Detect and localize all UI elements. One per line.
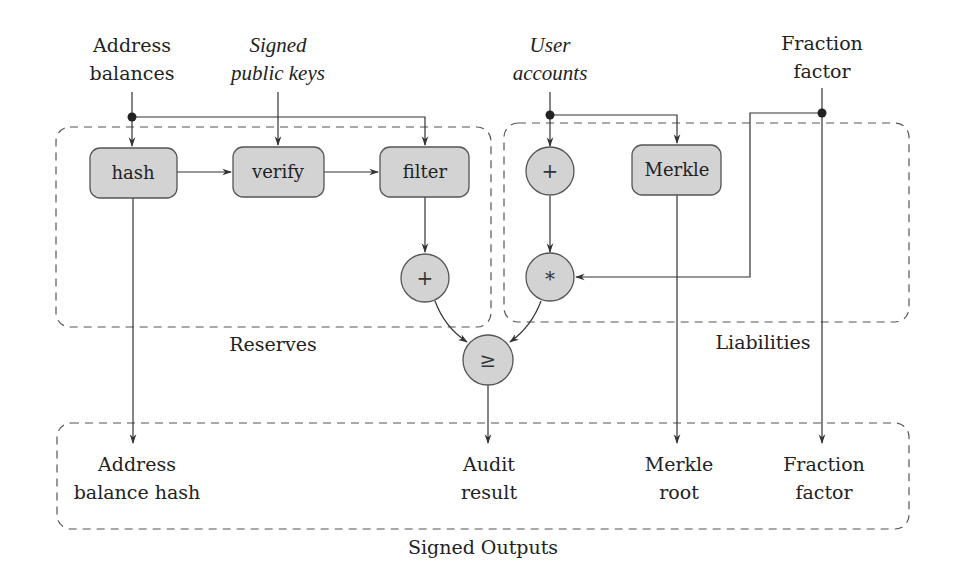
verify-node: verify — [233, 147, 324, 197]
input-address-balances-line2: balances — [90, 62, 175, 84]
output-merkle-root-line2: root — [659, 481, 699, 503]
liabilities-label: Liabilities — [715, 331, 810, 353]
merkle-node-label: Merkle — [644, 159, 709, 180]
output-merkle-root: Merkle root — [645, 453, 714, 503]
plus-icon: + — [417, 266, 434, 290]
hash-node-label: hash — [111, 162, 155, 183]
output-address-balance-hash: Address balance hash — [74, 453, 201, 503]
proof-of-solvency-diagram: Reserves Liabilities Signed Outputs Addr… — [0, 0, 957, 584]
input-signed-public-keys-line2: public keys — [229, 61, 325, 85]
merkle-node: Merkle — [632, 145, 721, 195]
output-fraction-factor-line2: factor — [795, 481, 853, 503]
input-signed-public-keys: Signed public keys — [229, 33, 325, 85]
signed-outputs-label: Signed Outputs — [408, 536, 558, 558]
junction-dot-accounts — [546, 111, 555, 120]
filter-node: filter — [380, 147, 469, 197]
input-fraction-factor-line1: Fraction — [781, 32, 863, 54]
multiply-node: * — [526, 253, 574, 301]
wire-reserves-sum-to-compare — [435, 301, 467, 342]
input-fraction-factor-line2: factor — [793, 60, 851, 82]
greater-equal-icon: ≥ — [480, 348, 497, 372]
reserves-sum-node: + — [401, 254, 449, 302]
filter-node-label: filter — [403, 161, 448, 182]
input-fraction-factor: Fraction factor — [781, 32, 863, 82]
junction-dot-fraction — [818, 109, 827, 118]
wire-accounts-to-merkle — [550, 115, 677, 143]
input-user-accounts: User accounts — [513, 33, 588, 85]
output-address-balance-hash-line2: balance hash — [74, 481, 201, 503]
output-audit-result-line1: Audit — [462, 453, 515, 475]
input-signed-public-keys-line1: Signed — [249, 33, 307, 57]
compare-node: ≥ — [463, 335, 513, 385]
output-merkle-root-line1: Merkle — [645, 453, 714, 475]
asterisk-icon: * — [545, 267, 555, 291]
input-address-balances-line1: Address — [92, 34, 171, 56]
output-audit-result: Audit result — [461, 453, 517, 503]
junction-dot-address — [128, 113, 137, 122]
verify-node-label: verify — [251, 161, 305, 182]
input-address-balances: Address balances — [90, 34, 175, 84]
input-user-accounts-line1: User — [530, 33, 572, 57]
output-audit-result-line2: result — [461, 481, 517, 503]
input-user-accounts-line2: accounts — [513, 61, 588, 85]
reserves-label: Reserves — [229, 333, 316, 355]
output-address-balance-hash-line1: Address — [97, 453, 176, 475]
output-fraction-factor-line1: Fraction — [783, 453, 865, 475]
output-fraction-factor: Fraction factor — [783, 453, 865, 503]
plus-icon: + — [542, 159, 559, 183]
signed-outputs-group — [57, 423, 909, 529]
hash-node: hash — [90, 148, 177, 198]
liabilities-sum-node: + — [526, 147, 574, 195]
